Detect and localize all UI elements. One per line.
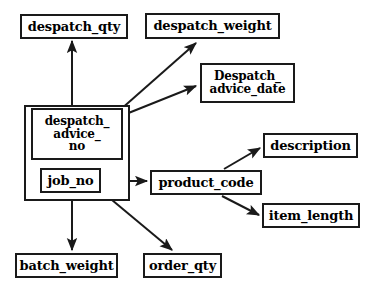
node-job_no[interactable]: job_no [40, 168, 101, 193]
node-despatch_advice_date[interactable]: Despatch_ advice_date [200, 63, 295, 103]
node-order_qty[interactable]: order_qty [143, 253, 222, 278]
edge-advice-to-advice-date [121, 86, 196, 116]
node-item_length[interactable]: item_length [262, 203, 360, 228]
diagram-canvas: despatch_qtydespatch_weightDespatch_ adv… [0, 0, 373, 297]
node-description[interactable]: description [263, 133, 358, 158]
node-product_code[interactable]: product_code [150, 170, 262, 195]
edge-product-to-description [224, 148, 260, 169]
node-despatch_qty[interactable]: despatch_qty [20, 14, 128, 39]
edge-advice-to-despatch-weight [120, 43, 196, 110]
node-batch_weight[interactable]: batch_weight [15, 253, 118, 278]
node-despatch_advice_no[interactable]: despatch_ advice_ no [31, 108, 123, 160]
node-despatch_weight[interactable]: despatch_weight [145, 13, 280, 39]
edge-product-to-item-length [222, 196, 259, 215]
